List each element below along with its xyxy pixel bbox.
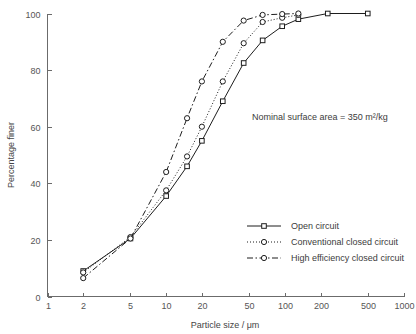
data-point-marker bbox=[241, 61, 246, 66]
data-point-marker bbox=[199, 124, 204, 129]
particle-size-distribution-chart: 1251020501002005001000 020406080100 Nomi… bbox=[0, 0, 416, 334]
data-point-marker bbox=[81, 276, 86, 281]
data-point-marker bbox=[164, 194, 169, 199]
data-point-marker bbox=[241, 18, 246, 23]
legend-label: High efficiency closed circuit bbox=[291, 253, 404, 263]
data-point-marker bbox=[260, 19, 265, 24]
data-point-marker bbox=[200, 139, 205, 144]
data-point-marker bbox=[296, 11, 301, 16]
x-tick-label: 2 bbox=[81, 301, 86, 311]
legend-item-1[interactable]: Open circuit bbox=[247, 221, 340, 231]
y-tick-label: 60 bbox=[30, 123, 40, 133]
legend-marker bbox=[261, 239, 266, 244]
legend-item-2[interactable]: Conventional closed circuit bbox=[247, 237, 399, 247]
x-tick-label: 500 bbox=[361, 301, 376, 311]
data-point-marker bbox=[164, 188, 169, 193]
data-point-marker bbox=[184, 116, 189, 121]
x-tick-label: 50 bbox=[244, 301, 254, 311]
data-point-marker bbox=[280, 11, 285, 16]
series-line bbox=[83, 15, 298, 273]
legend-marker bbox=[261, 255, 266, 260]
chart-legend: Open circuitConventional closed circuitH… bbox=[247, 221, 404, 263]
y-tick-label: 40 bbox=[30, 179, 40, 189]
data-point-marker bbox=[185, 164, 190, 169]
y-tick-label: 0 bbox=[35, 293, 40, 303]
data-point-marker bbox=[128, 236, 133, 241]
y-tick-label: 100 bbox=[25, 10, 40, 20]
data-point-marker bbox=[325, 11, 330, 16]
y-tick-label: 80 bbox=[30, 66, 40, 76]
x-tick-label: 20 bbox=[197, 301, 207, 311]
data-point-marker bbox=[220, 39, 225, 44]
x-tick-label: 100 bbox=[278, 301, 293, 311]
data-point-marker bbox=[365, 11, 370, 16]
series-line bbox=[83, 14, 368, 272]
x-tick-label: 10 bbox=[161, 301, 171, 311]
legend-label: Conventional closed circuit bbox=[291, 237, 399, 247]
x-tick-label: 1000 bbox=[394, 301, 414, 311]
nominal-surface-area-annotation: Nominal surface area = 350 m²/kg bbox=[252, 112, 388, 122]
chart-figure: 1251020501002005001000 020406080100 Nomi… bbox=[0, 0, 416, 334]
x-axis-ticks bbox=[49, 293, 405, 297]
data-point-marker bbox=[241, 41, 246, 46]
data-point-marker bbox=[220, 99, 225, 104]
data-point-marker bbox=[184, 154, 189, 159]
legend-marker bbox=[262, 224, 267, 229]
x-axis-title: Particle size / μm bbox=[191, 320, 260, 330]
series-3 bbox=[81, 11, 301, 281]
legend-item-3[interactable]: High efficiency closed circuit bbox=[247, 253, 404, 263]
data-point-marker bbox=[81, 270, 86, 275]
x-tick-label: 5 bbox=[128, 301, 133, 311]
x-tick-label: 200 bbox=[314, 301, 329, 311]
series-2 bbox=[81, 12, 301, 275]
y-axis-title: Percentage finer bbox=[6, 122, 16, 188]
series-1 bbox=[81, 11, 370, 273]
x-tick-label: 1 bbox=[46, 301, 51, 311]
y-tick-label: 20 bbox=[30, 236, 40, 246]
data-point-marker bbox=[220, 79, 225, 84]
data-point-marker bbox=[260, 12, 265, 17]
data-point-marker bbox=[260, 38, 265, 43]
legend-label: Open circuit bbox=[291, 221, 340, 231]
series-line bbox=[83, 14, 298, 279]
data-point-marker bbox=[280, 24, 285, 29]
x-axis-tick-labels: 1251020501002005001000 bbox=[46, 301, 415, 311]
y-axis-tick-labels: 020406080100 bbox=[25, 10, 40, 303]
data-point-marker bbox=[199, 79, 204, 84]
y-axis-ticks bbox=[48, 15, 52, 298]
data-point-marker bbox=[164, 169, 169, 174]
